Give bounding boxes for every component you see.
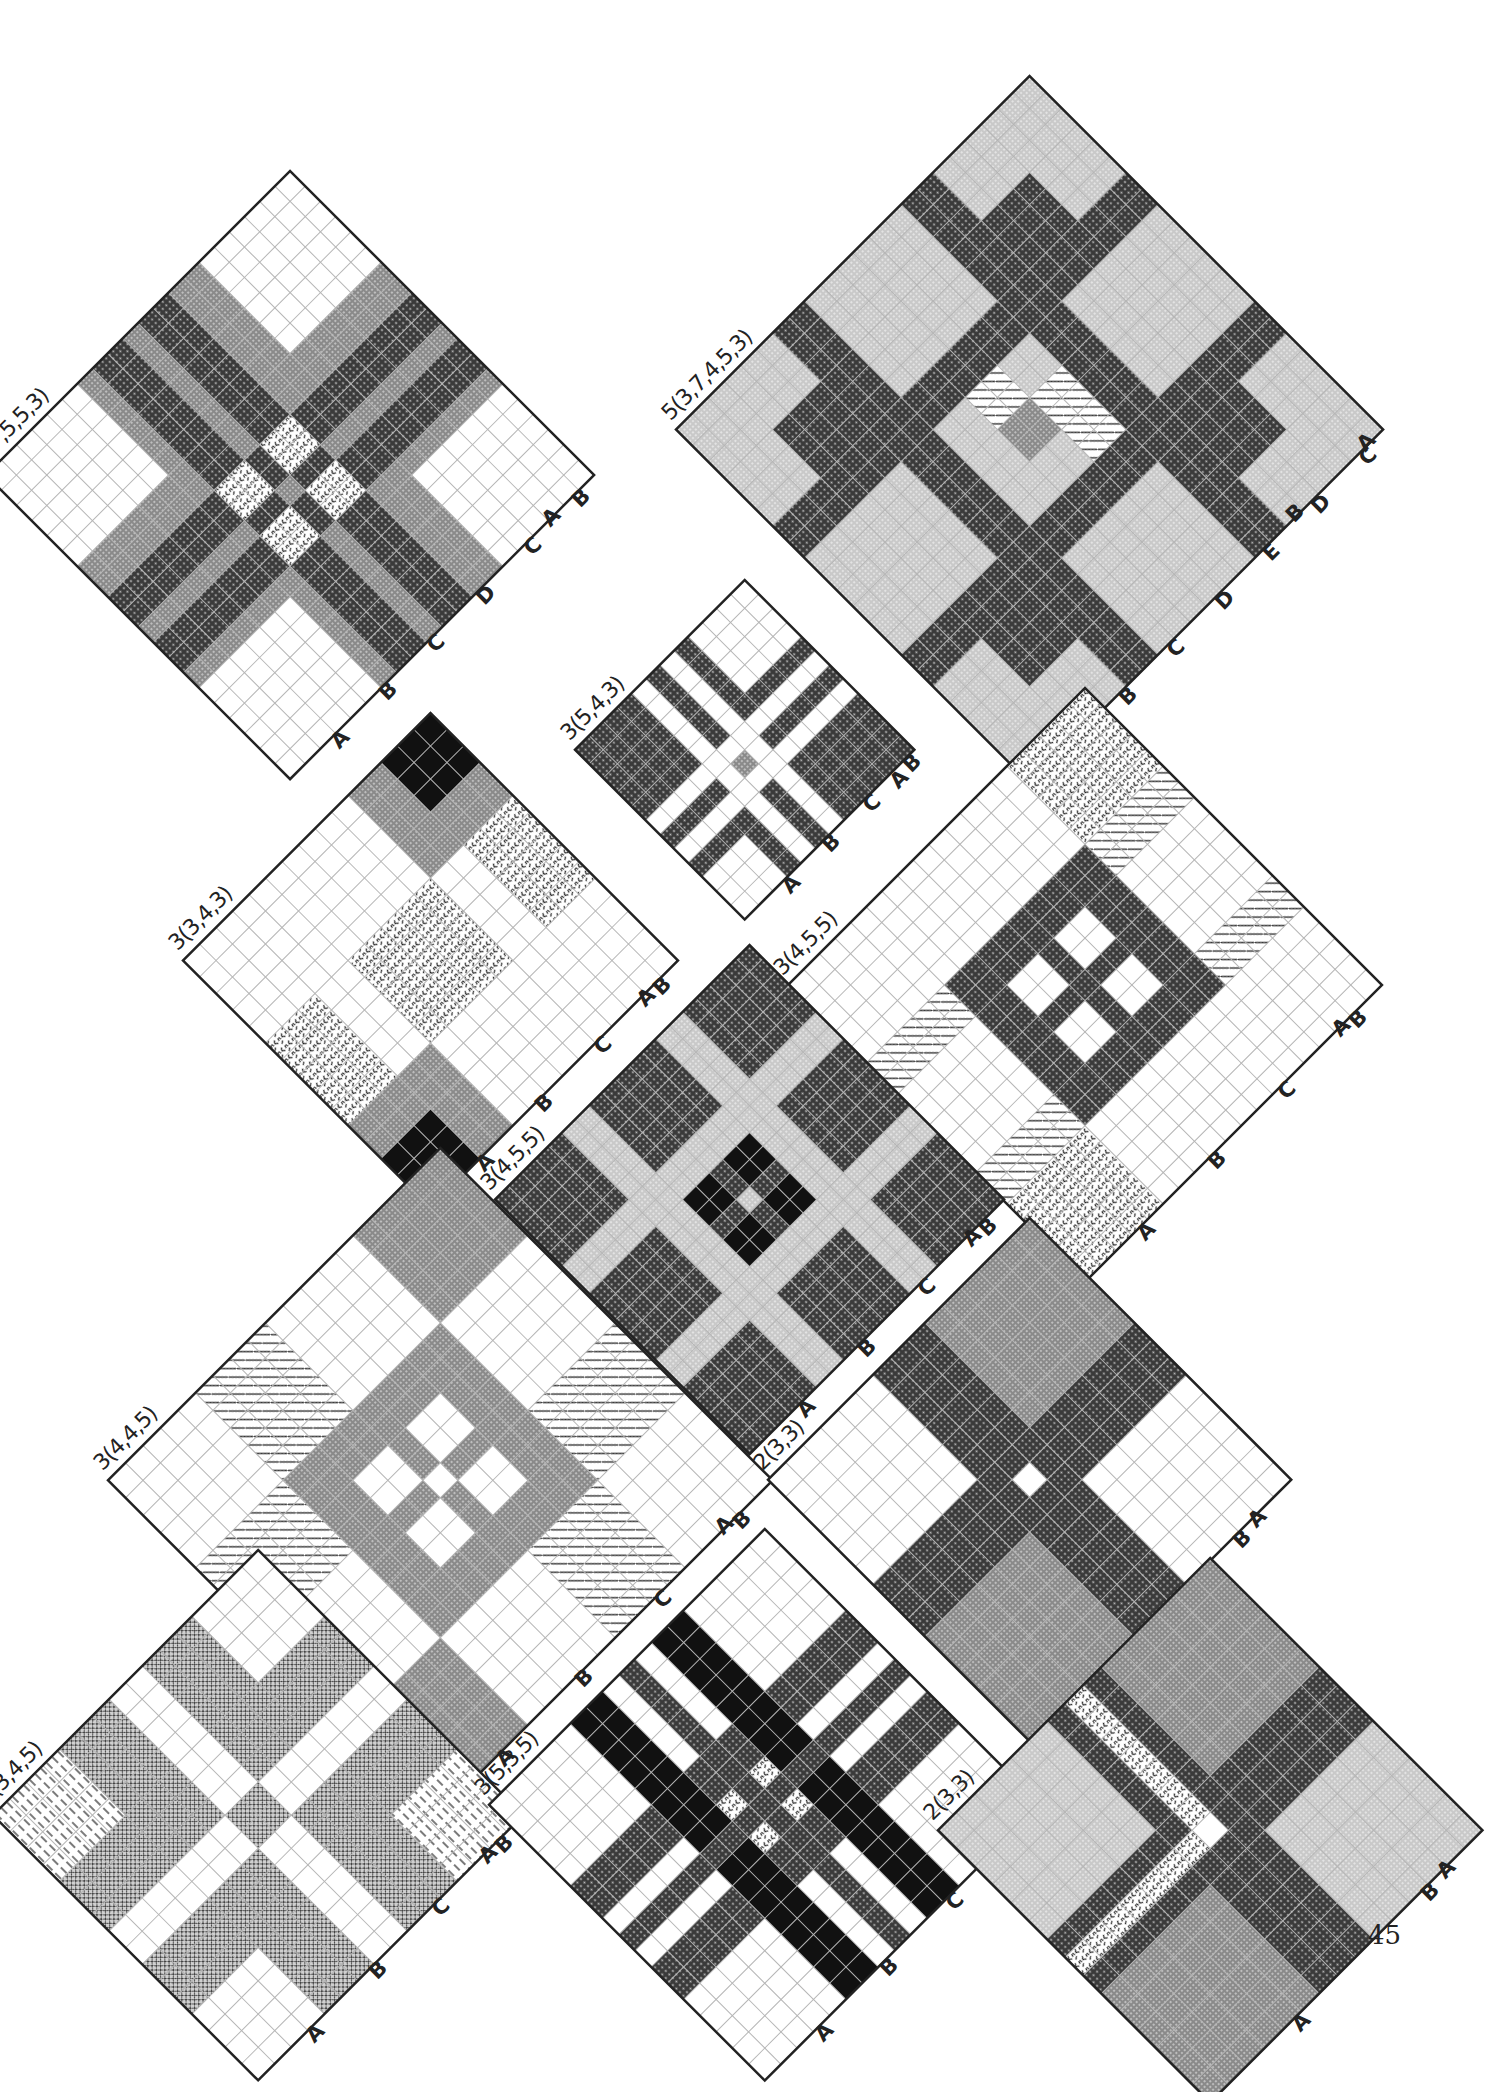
quilt-block-3-3-4-5: 3(3,4,5)ABCBA bbox=[0, 1550, 523, 2080]
quilt-diamond-graphic bbox=[938, 1558, 1482, 2092]
quilt-block-4-7-5-5-3: 4(7,5,5,3)ABCDCBA bbox=[0, 171, 594, 779]
page-number: 45 bbox=[1368, 1920, 1401, 1950]
quilt-block-2-3-3-b: 2(3,3)ABA bbox=[938, 1558, 1482, 2092]
quilt-diamond-graphic bbox=[0, 1550, 523, 2080]
quilt-diamond-graphic bbox=[0, 171, 594, 779]
